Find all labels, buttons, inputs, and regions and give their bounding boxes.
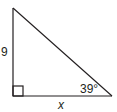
right-angle-marker [13,86,23,96]
right-triangle-diagram: 9 x 39° [0,0,117,112]
vertical-side-label: 9 [1,45,8,59]
angle-label: 39° [80,82,98,96]
horizontal-side-label: x [57,98,65,112]
